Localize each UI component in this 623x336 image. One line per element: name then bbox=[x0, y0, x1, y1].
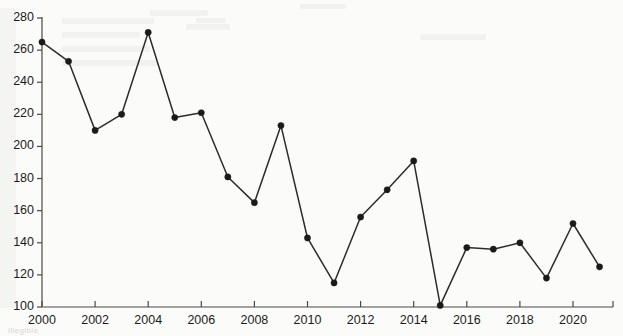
y-axis-tick-label: 160 bbox=[0, 203, 34, 217]
data-line-series-1 bbox=[42, 32, 600, 305]
x-axis-tick-label: 2008 bbox=[224, 313, 284, 327]
y-axis-tick-label: 220 bbox=[0, 106, 34, 120]
y-axis-tick-label: 280 bbox=[0, 10, 34, 24]
x-axis-tick-label: 2016 bbox=[437, 313, 497, 327]
y-axis-tick-label: 180 bbox=[0, 171, 34, 185]
x-axis-tick-label: 2006 bbox=[171, 313, 231, 327]
y-axis-tick-label: 120 bbox=[0, 267, 34, 281]
data-point-markers bbox=[39, 29, 603, 308]
x-axis-tick-label: 2020 bbox=[543, 313, 603, 327]
x-axis-tick-label: 2002 bbox=[65, 313, 125, 327]
x-axis-tick-label: 2018 bbox=[490, 313, 550, 327]
x-axis-tick-label: 2000 bbox=[12, 313, 72, 327]
y-axis-tick-label: 260 bbox=[0, 42, 34, 56]
y-axis-tick-label: 200 bbox=[0, 138, 34, 152]
x-axis-tick-label: 2010 bbox=[278, 313, 338, 327]
x-axis-tick-label: 2014 bbox=[384, 313, 444, 327]
chart-scan-page: 100120140160180200220240260280 200020022… bbox=[0, 0, 623, 336]
line-chart bbox=[0, 0, 623, 336]
x-axis-tick-label: 2004 bbox=[118, 313, 178, 327]
chart-axes bbox=[42, 17, 613, 307]
chart-tick-marks bbox=[37, 18, 613, 307]
y-axis-tick-label: 100 bbox=[0, 299, 34, 313]
x-axis-tick-label: 2012 bbox=[331, 313, 391, 327]
y-axis-tick-label: 240 bbox=[0, 74, 34, 88]
y-axis-tick-label: 140 bbox=[0, 235, 34, 249]
